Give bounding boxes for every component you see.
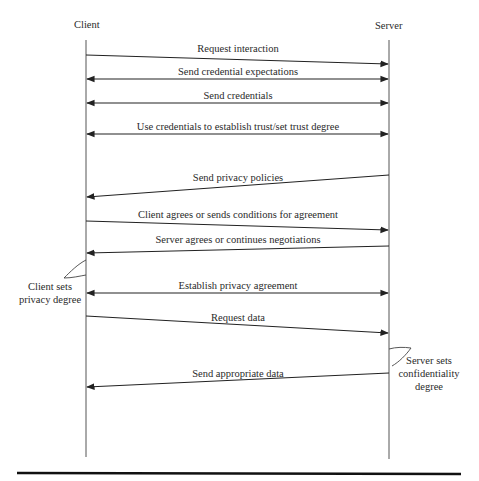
message-label: Request data [211,312,265,323]
message-arrow [86,55,388,64]
client-note-connector [64,260,86,278]
server-note-line-3: degree [415,381,443,392]
participant-client-label: Client [74,19,100,30]
message-label: Establish privacy agreement [179,280,298,291]
bottom-rule [17,473,461,474]
message-label: Send credential expectations [178,66,298,77]
client-note-line-1: Client sets [28,281,72,292]
message-arrow [86,221,388,230]
message-label: Use credentials to establish trust/set t… [137,121,340,132]
message-label: Request interaction [197,43,279,54]
client-note-line-2: privacy degree [19,294,81,305]
server-note-line-2: confidentiality [398,368,460,379]
message-label: Client agrees or sends conditions for ag… [138,209,338,220]
participant-server-label: Server [375,20,403,31]
message-label: Send privacy policies [193,172,283,183]
server-note-line-1: Server sets [406,355,452,366]
message-label: Send credentials [203,90,272,101]
message-label: Server agrees or continues negotiations [155,234,320,245]
message-label: Send appropriate data [192,368,284,379]
message-arrow [87,246,389,253]
sequence-diagram: Client Server Request interaction Send c… [0,0,479,481]
